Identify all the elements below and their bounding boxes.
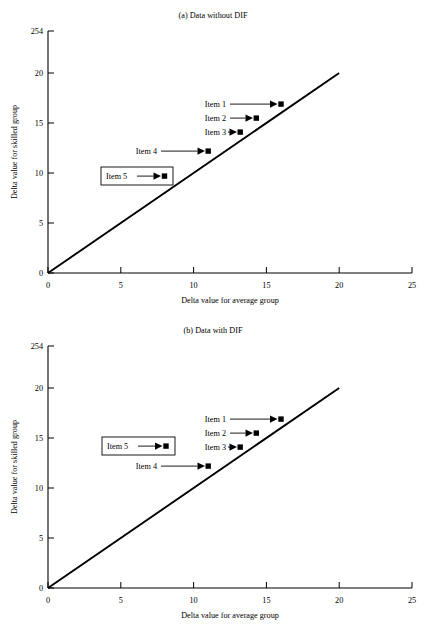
y-ticks-a: 0 5 10 15 20 254 (31, 27, 54, 278)
item-label: Item 1 (205, 100, 226, 109)
item-label: Item 3 (205, 128, 226, 137)
y-axis-title: Delta value for skilled group (10, 105, 19, 199)
x-tick-label: 10 (190, 596, 198, 605)
chart-panel-b: (b) Data with DIF 0 5 10 15 20 25 (0, 315, 426, 630)
y-tick-label: 0 (39, 269, 43, 278)
item-label: Item 5 (106, 172, 127, 181)
x-tick-label: 5 (119, 596, 123, 605)
x-tick-label: 0 (46, 596, 50, 605)
x-tick-label: 10 (190, 281, 198, 290)
arrow-head-icon (270, 415, 278, 422)
x-tick-label: 20 (335, 281, 343, 290)
data-marker (163, 443, 168, 448)
axes-b (48, 346, 412, 588)
y-tick-label: 20 (35, 384, 43, 393)
arrow-head-icon (198, 147, 206, 154)
callout-item-2-a: Item 2 (205, 114, 253, 123)
arrow-head-icon (230, 128, 238, 135)
x-tick-label: 0 (46, 281, 50, 290)
scatter-plot-b: (b) Data with DIF 0 5 10 15 20 25 (0, 315, 426, 630)
data-marker (206, 148, 211, 153)
y-tick-label: 15 (35, 119, 43, 128)
y-tick-label: 5 (39, 219, 43, 228)
arrow-head-icon (270, 100, 278, 107)
panel-title-b: (b) Data with DIF (184, 326, 243, 335)
callout-item-3-b: Item 3 (205, 443, 237, 452)
data-marker (162, 173, 167, 178)
arrow-head-icon (230, 443, 238, 450)
y-tick-label: 5 (39, 534, 43, 543)
y-axis-title: Delta value for skilled group (10, 420, 19, 514)
data-marker (278, 101, 283, 106)
arrow-head-icon (246, 114, 254, 121)
data-marker (254, 115, 259, 120)
data-marker (278, 416, 283, 421)
data-marker (238, 129, 243, 134)
item-label: Item 2 (205, 114, 226, 123)
callout-item-1-b: Item 1 (205, 415, 278, 424)
x-ticks-a: 0 5 10 15 20 25 (46, 267, 416, 290)
arrow-head-icon (155, 442, 163, 449)
callout-item-1-a: Item 1 (205, 100, 278, 109)
panel-title-a: (a) Data without DIF (179, 11, 248, 20)
x-axis-title: Delta value for average group (181, 296, 279, 305)
data-marker (254, 430, 259, 435)
x-tick-label: 20 (335, 596, 343, 605)
y-tick-label: 10 (35, 484, 43, 493)
x-tick-label: 25 (408, 281, 416, 290)
item-label: Item 4 (136, 147, 157, 156)
callout-item-3-a: Item 3 (205, 128, 237, 137)
arrow-head-icon (154, 172, 162, 179)
x-tick-label: 5 (119, 281, 123, 290)
scatter-plot-a: (a) Data without DIF 0 5 10 15 20 25 (0, 0, 426, 315)
x-tick-label: 15 (262, 281, 270, 290)
identity-reference-line (48, 388, 339, 588)
data-points-a (162, 101, 284, 178)
chart-panel-a: (a) Data without DIF 0 5 10 15 20 25 (0, 0, 426, 315)
y-tick-label: 0 (39, 584, 43, 593)
arrow-head-icon (198, 462, 206, 469)
arrow-head-icon (246, 429, 254, 436)
item-label: Item 4 (136, 462, 157, 471)
callout-item-2-b: Item 2 (205, 429, 253, 438)
figure-page: (a) Data without DIF 0 5 10 15 20 25 (0, 0, 426, 630)
y-tick-label: 10 (35, 169, 43, 178)
y-ticks-b: 0 5 10 15 20 254 (31, 342, 54, 593)
data-marker (238, 444, 243, 449)
y-tick-label: 254 (31, 27, 43, 36)
item-label: Item 1 (205, 415, 226, 424)
item-label: Item 3 (205, 443, 226, 452)
item-label: Item 5 (107, 442, 128, 451)
x-axis-title: Delta value for average group (181, 611, 279, 620)
x-tick-label: 25 (408, 596, 416, 605)
x-ticks-b: 0 5 10 15 20 25 (46, 582, 416, 605)
identity-reference-line (48, 73, 339, 273)
y-tick-label: 254 (31, 342, 43, 351)
y-tick-label: 20 (35, 69, 43, 78)
axes-a (48, 31, 412, 273)
x-tick-label: 15 (262, 596, 270, 605)
data-marker (206, 463, 211, 468)
callout-item-4-a: Item 4 (136, 147, 205, 156)
item-label: Item 2 (205, 429, 226, 438)
y-tick-label: 15 (35, 434, 43, 443)
callout-item-4-b: Item 4 (136, 462, 205, 471)
